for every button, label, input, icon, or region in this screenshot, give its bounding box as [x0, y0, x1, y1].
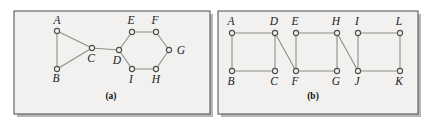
node-panel-a-D	[116, 47, 121, 52]
node-panel-b-A	[229, 30, 234, 35]
node-panel-a-E	[129, 29, 134, 34]
node-label-panel-b-B: B	[227, 75, 234, 87]
node-panel-b-K	[397, 68, 402, 73]
node-panel-a-I	[129, 66, 134, 71]
figure-container: ABCDEFGHIADEHILBCFGJK (a)(b)	[0, 0, 432, 127]
node-label-panel-a-H: H	[151, 73, 161, 85]
node-label-panel-a-G: G	[177, 44, 186, 56]
node-label-panel-b-H: H	[331, 15, 341, 27]
node-panel-a-F	[153, 29, 158, 34]
node-panel-b-L	[397, 30, 402, 35]
panel-a-caption: (a)	[105, 91, 116, 102]
node-label-panel-a-A: A	[52, 14, 61, 26]
node-panel-b-H	[334, 30, 339, 35]
node-panel-b-D	[272, 30, 277, 35]
node-label-panel-b-J: J	[354, 75, 360, 87]
node-label-panel-a-B: B	[52, 72, 59, 84]
node-label-panel-b-D: D	[269, 15, 279, 27]
node-label-panel-b-K: K	[394, 75, 404, 87]
node-panel-a-B	[54, 66, 59, 71]
panel-b-caption: (b)	[307, 91, 319, 102]
node-panel-a-G	[166, 47, 171, 52]
node-label-panel-b-A: A	[226, 15, 235, 27]
node-panel-b-G	[334, 68, 339, 73]
node-panel-b-C	[272, 68, 277, 73]
node-panel-a-C	[89, 45, 94, 50]
node-panel-b-E	[293, 30, 298, 35]
node-panel-b-B	[229, 68, 234, 73]
node-label-panel-b-E: E	[290, 15, 298, 27]
node-panel-a-A	[54, 28, 59, 33]
node-panel-b-J	[355, 68, 360, 73]
node-panel-b-I	[355, 30, 360, 35]
node-label-panel-a-F: F	[150, 14, 159, 26]
node-label-panel-b-F: F	[290, 75, 299, 87]
node-label-panel-b-C: C	[270, 75, 278, 87]
node-label-panel-a-C: C	[87, 52, 95, 64]
node-label-panel-b-G: G	[332, 75, 341, 87]
node-label-panel-b-L: L	[395, 15, 402, 27]
node-panel-a-H	[153, 66, 158, 71]
node-label-panel-a-D: D	[112, 54, 122, 66]
node-label-panel-a-E: E	[126, 14, 134, 26]
graph-figure-svg: ABCDEFGHIADEHILBCFGJK (a)(b)	[0, 0, 432, 127]
node-panel-b-F	[293, 68, 298, 73]
